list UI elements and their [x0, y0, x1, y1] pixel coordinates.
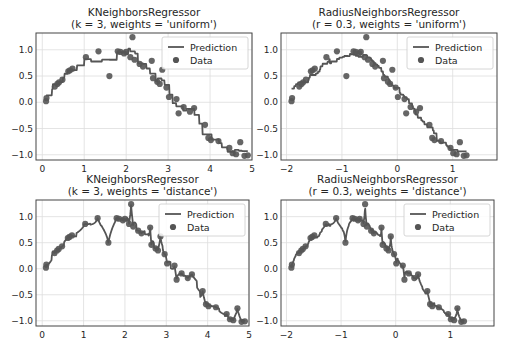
y-tick-label: 1.0: [19, 45, 34, 55]
data-point: [372, 63, 378, 69]
data-point: [164, 260, 170, 266]
data-point: [59, 77, 65, 83]
data-point: [403, 110, 409, 116]
data-point: [451, 317, 457, 323]
y-tick-label: −1.0: [256, 316, 278, 326]
x-tick-label: 1: [81, 330, 87, 340]
data-point: [242, 318, 248, 324]
x-tick-label: 5: [246, 330, 252, 340]
data-point: [181, 104, 187, 110]
y-tick-label: 1.0: [264, 212, 279, 222]
data-point: [454, 305, 460, 311]
data-point: [389, 67, 395, 73]
data-point: [138, 230, 144, 236]
data-point: [393, 260, 399, 266]
data-point: [323, 221, 329, 227]
y-tick-label: −1.0: [256, 150, 278, 160]
data-point: [401, 277, 407, 283]
legend-data-label: Data: [435, 55, 458, 66]
data-point: [378, 224, 384, 230]
y-tick-label: 0.0: [19, 97, 34, 107]
data-point: [202, 122, 208, 128]
data-point: [363, 34, 369, 40]
data-point: [43, 261, 49, 267]
data-point: [69, 232, 75, 238]
y-tick-label: 0.0: [264, 264, 279, 274]
x-tick-label: 3: [163, 330, 169, 340]
y-tick-label: −0.5: [256, 124, 278, 134]
data-point: [123, 49, 129, 55]
y-tick-label: −0.5: [11, 290, 33, 300]
y-tick-label: 0.0: [264, 97, 279, 107]
data-point: [343, 73, 349, 79]
data-point: [453, 151, 459, 157]
data-point: [438, 138, 444, 144]
data-point: [95, 48, 101, 54]
data-point: [234, 305, 240, 311]
legend-prediction-label: Prediction: [435, 42, 482, 53]
data-point: [224, 311, 230, 317]
data-point: [436, 304, 442, 310]
data-point: [387, 81, 393, 87]
x-tick-label: 4: [205, 330, 211, 340]
data-point: [312, 66, 318, 72]
data-point: [406, 270, 412, 276]
subplot-knn-distance: KNeighborsRegressor(k = 3, weights = 'di…: [11, 173, 252, 340]
data-point: [174, 277, 180, 283]
y-tick-label: 1.0: [19, 212, 34, 222]
data-point: [173, 96, 179, 102]
data-point: [140, 63, 146, 69]
data-point: [215, 138, 221, 144]
data-point: [302, 243, 308, 249]
data-point: [171, 263, 177, 269]
legend-prediction-label: Prediction: [187, 209, 234, 220]
data-point: [431, 137, 437, 143]
data-point: [417, 105, 423, 111]
data-point: [230, 317, 236, 323]
subplot-title-line: (k = 3, weights = 'distance'): [68, 185, 218, 197]
data-point: [371, 230, 377, 236]
y-tick-label: 0.5: [264, 71, 278, 81]
data-point: [122, 216, 128, 222]
legend-data-label: Data: [187, 222, 210, 233]
legend-prediction-label: Prediction: [432, 209, 479, 220]
y-tick-label: 0.5: [19, 71, 33, 81]
data-point: [69, 66, 75, 72]
data-point: [311, 232, 317, 238]
subplot-radius-distance: RadiusNeighborsRegressor(r = 0.3, weight…: [256, 173, 494, 340]
x-tick-label: 2: [122, 330, 128, 340]
y-tick-label: −0.5: [256, 290, 278, 300]
data-point: [147, 224, 153, 230]
figure: KNeighborsRegressor(k = 3, weights = 'un…: [0, 0, 513, 352]
data-point: [463, 152, 469, 158]
data-point: [162, 251, 168, 257]
data-point: [226, 145, 232, 151]
data-point: [82, 221, 88, 227]
subplot-title-line: KNeighborsRegressor: [88, 6, 201, 18]
data-point: [391, 251, 397, 257]
subplot-title-line: RadiusNeighborsRegressor: [317, 173, 458, 185]
y-tick-label: −1.0: [11, 316, 33, 326]
data-point: [388, 233, 394, 239]
data-point: [424, 288, 430, 294]
x-tick-label: −2: [280, 330, 293, 340]
y-tick-label: 0.0: [19, 264, 34, 274]
x-tick-label: −1: [334, 330, 347, 340]
data-point: [83, 54, 89, 60]
data-point: [59, 243, 65, 249]
x-tick-label: 0: [39, 164, 45, 174]
data-point: [447, 145, 453, 151]
subplot-title-line: (r = 0.3, weights = 'distance'): [309, 185, 467, 197]
data-point: [385, 247, 391, 253]
data-point: [395, 94, 401, 100]
legend-marker-icon: [415, 224, 421, 230]
data-point: [380, 58, 386, 64]
y-tick-label: 0.5: [19, 238, 33, 248]
data-point: [233, 151, 239, 157]
data-point: [149, 58, 155, 64]
legend-marker-icon: [173, 57, 179, 63]
data-point: [176, 110, 182, 116]
subplot-title-line: KNeighborsRegressor: [86, 173, 199, 185]
data-point: [237, 139, 243, 145]
data-point: [163, 84, 169, 90]
